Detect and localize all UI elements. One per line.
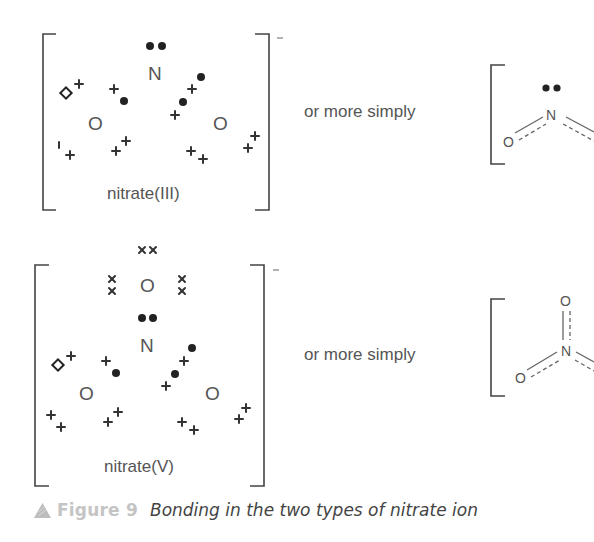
electron-cross — [150, 247, 156, 253]
figure-caption: Figure 9 Bonding in the two types of nit… — [34, 498, 478, 522]
electron-cross — [112, 147, 120, 155]
electron-dot — [553, 84, 560, 91]
nitrate-iii-simple-structure: N O — [491, 65, 594, 164]
electron-cross — [180, 357, 188, 365]
electron-cross — [75, 80, 83, 88]
bond-line — [576, 352, 594, 362]
electron-dot — [120, 97, 128, 105]
bond-dashed — [575, 360, 594, 371]
electron-cross — [179, 288, 185, 294]
electron-dot — [112, 369, 120, 377]
electron-cross — [242, 404, 250, 412]
atom-oxygen: O — [503, 134, 514, 150]
bond-line — [527, 352, 557, 370]
electron-cross — [199, 155, 207, 163]
electron-cross — [114, 408, 122, 416]
atom-oxygen-top: O — [560, 293, 571, 309]
ion-name-label: nitrate(V) — [104, 457, 174, 476]
extra-electron-diamond — [60, 87, 71, 98]
electron-dot — [188, 344, 196, 352]
electron-dot — [158, 42, 166, 50]
electron-cross — [109, 276, 115, 282]
electron-cross — [171, 111, 179, 119]
electron-cross — [110, 85, 118, 93]
ion-name-label: nitrate(III) — [107, 184, 180, 203]
electron-cross — [139, 247, 145, 253]
bond-dashed — [531, 360, 560, 377]
electron-dot — [542, 84, 549, 91]
electron-cross — [190, 426, 198, 434]
nitrate-bonding-figure: N O O nitrate(III) or more simply N O — [0, 0, 594, 542]
electron-cross — [102, 357, 110, 365]
electron-dot — [138, 314, 146, 322]
right-bracket — [255, 34, 269, 210]
atom-oxygen-top: O — [140, 275, 155, 296]
atom-oxygen-left: O — [88, 113, 103, 134]
atom-nitrogen: N — [546, 107, 556, 123]
triangle-icon — [34, 503, 51, 518]
left-bracket — [43, 34, 56, 210]
electron-cross — [122, 137, 130, 145]
electron-dot — [179, 98, 187, 106]
atom-oxygen-right: O — [213, 113, 228, 134]
electron-cross — [179, 276, 185, 282]
electron-dot — [146, 42, 154, 50]
right-bracket — [250, 265, 264, 486]
left-bracket — [35, 265, 49, 486]
bond-dashed — [563, 124, 594, 141]
nitrate-v-simple-structure: O N O — [491, 293, 594, 396]
left-bracket — [491, 299, 505, 396]
atom-oxygen: O — [515, 370, 526, 386]
electron-dot — [149, 314, 157, 322]
or-more-simply-text: or more simply — [304, 345, 416, 364]
atom-nitrogen: N — [140, 335, 154, 356]
atom-oxygen-left: O — [79, 383, 94, 404]
electron-cross — [187, 147, 195, 155]
atom-nitrogen: N — [561, 343, 571, 359]
electron-cross — [178, 418, 186, 426]
nitrate-v-dot-cross-diagram: O N O O nitrate(V) — [35, 247, 279, 486]
bond-line — [515, 117, 543, 133]
bond-dashed — [519, 124, 546, 140]
electron-dot — [197, 73, 205, 81]
electron-cross — [235, 415, 243, 423]
nitrate-iii-dot-cross-diagram: N O O nitrate(III) — [43, 34, 283, 210]
electron-cross — [67, 352, 75, 360]
extra-electron-diamond — [52, 359, 63, 370]
atom-nitrogen: N — [148, 63, 162, 84]
electron-cross — [109, 288, 115, 294]
electron-cross — [47, 411, 55, 419]
figure-number: Figure 9 — [57, 500, 138, 520]
electron-cross — [251, 132, 259, 140]
electron-cross — [188, 85, 196, 93]
or-more-simply-text: or more simply — [304, 102, 416, 121]
electron-cross — [162, 382, 170, 390]
electron-cross — [66, 151, 74, 159]
electron-cross — [104, 418, 112, 426]
atom-oxygen-right: O — [205, 383, 220, 404]
bond-line — [566, 117, 594, 132]
electron-dot — [171, 370, 179, 378]
electron-cross — [244, 144, 252, 152]
electron-cross — [57, 423, 65, 431]
caption-text: Bonding in the two types of nitrate ion — [150, 500, 478, 520]
